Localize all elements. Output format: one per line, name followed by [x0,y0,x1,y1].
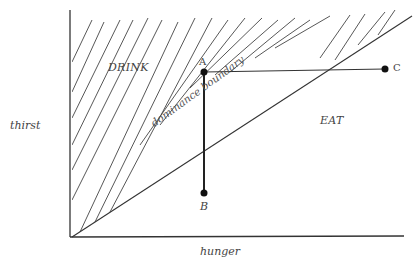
x-axis-label: hunger [200,245,240,258]
eat-region-label: EAT [320,114,344,127]
drink-region-hatching [72,10,395,232]
dominance-boundary-line [72,16,412,237]
x-axis [70,236,404,237]
point-b-label: B [200,200,208,213]
point-c-label: C [393,62,401,73]
point-a-marker [201,69,208,76]
drink-region-label: DRINK [108,61,149,74]
point-b-marker [201,190,208,197]
point-a-label: A [199,56,206,67]
motivation-diagram [0,0,420,267]
y-axis-label: thirst [10,119,40,132]
point-c-marker [382,66,389,73]
